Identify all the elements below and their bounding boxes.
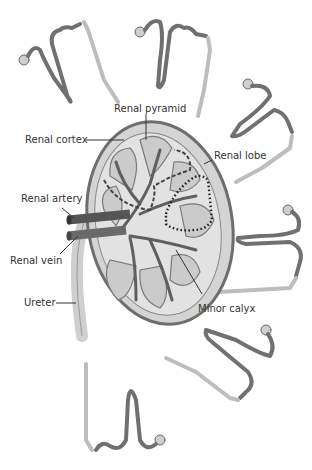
label-ureter: Ureter: [24, 297, 56, 309]
label-renal-lobe: Renal lobe: [214, 150, 266, 162]
nephron-bottom: [86, 364, 165, 450]
label-minor-calyx: Minor calyx: [198, 303, 255, 315]
label-renal-pyramid: Renal pyramid: [114, 103, 186, 115]
kidney-diagram: [0, 0, 312, 470]
label-renal-vein: Renal vein: [10, 255, 62, 267]
label-renal-cortex: Renal cortex: [25, 134, 88, 146]
nephron-top-middle: [135, 21, 210, 116]
label-renal-artery: Renal artery: [21, 193, 82, 205]
nephron-right-top: [232, 79, 292, 182]
nephron-bottom-right: [166, 325, 273, 400]
nephron-top-left: [19, 22, 118, 102]
